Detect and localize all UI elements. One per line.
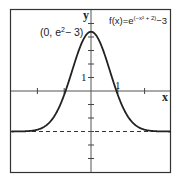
function-label-prefix: f(x)=e (109, 15, 134, 26)
peak-annotation-suffix: − 3) (65, 26, 83, 38)
x-tick-label-1: 1 (115, 79, 121, 91)
function-label-suffix: −3 (156, 15, 167, 26)
x-axis-label: x (162, 90, 168, 104)
function-label: f(x)=e(−x² + 2)−3 (109, 15, 167, 26)
peak-annotation: (0, e2− 3) (40, 26, 83, 38)
function-graph: y x 1 1 (0, e2− 3) f(x)=e(−x² + 2)−3 (0, 0, 178, 181)
y-tick-label-1: 1 (81, 71, 87, 83)
peak-annotation-prefix: (0, e (40, 26, 61, 38)
y-axis-label: y (83, 8, 89, 22)
function-label-exponent: (−x² + 2) (134, 15, 157, 21)
